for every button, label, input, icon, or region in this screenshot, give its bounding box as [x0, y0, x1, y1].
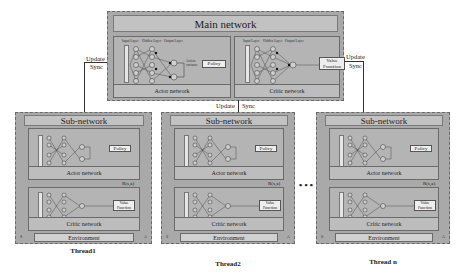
value-function-box: ValueFunction [113, 200, 135, 211]
subnetwork-title: Sub-network [170, 115, 288, 126]
main-value-function-box: ValueFunction [319, 57, 345, 70]
state-input-bar [339, 192, 344, 220]
actor-network: Policy Actor network [28, 128, 140, 180]
critic-network: ValueFunction Critic network [329, 187, 439, 231]
critic-network: ValueFunction Critic network [28, 187, 140, 231]
main-critic-network: Input Layer Hidden Layer Output Layer Va… [234, 36, 340, 98]
thread2-label: Thread2 [188, 260, 268, 268]
neural-net-icon [345, 133, 405, 169]
state-input-bar [245, 45, 250, 83]
main-policy-box: Policy [202, 60, 226, 68]
actor-network-label: Actor network [29, 166, 139, 179]
state-corner-label: S [321, 234, 323, 239]
subnetwork-title: Sub-network [24, 115, 144, 126]
critic-network: ValueFunction Critic network [174, 187, 284, 231]
state-input-bar [184, 192, 189, 220]
main-actor-network: Input Layer Hidden Layer Output Layer Ac… [113, 36, 231, 98]
actor-network-label: Actor network [330, 166, 438, 179]
neural-net-icon [44, 133, 104, 169]
critic-network-label: Critic network [29, 217, 139, 230]
right-connector-vertical [363, 61, 364, 112]
state-input-bar [38, 135, 43, 167]
reward-label: R(s,a) [268, 181, 280, 186]
state-input-bar [184, 135, 189, 167]
state-input-bar [339, 135, 344, 167]
state-input-bar [38, 192, 43, 220]
thread2-subnetwork-panel: Sub-network Policy Actor network R(s,a) … [161, 112, 295, 244]
action-corner-label: A [442, 234, 445, 239]
center-update-label: Update [216, 102, 235, 109]
environment-bar: Environment [34, 233, 134, 242]
environment-bar: Environment [180, 233, 278, 242]
main-actor-label: Actor network [114, 84, 230, 97]
state-corner-label: S [166, 234, 168, 239]
environment-bar: Environment [335, 233, 433, 242]
actor-network: Policy Actor network [329, 128, 439, 180]
thread1-label: Thread1 [43, 247, 123, 255]
value-function-box: ValueFunction [259, 200, 281, 211]
state-input-bar [124, 45, 129, 83]
main-critic-label: Critic network [235, 84, 339, 97]
neural-net-icon [130, 43, 190, 87]
subnetwork-title: Sub-network [325, 115, 443, 126]
left-sync-label: Sync [90, 63, 103, 70]
neural-net-icon [190, 133, 250, 169]
critic-network-label: Critic network [175, 217, 283, 230]
policy-box: Policy [255, 145, 277, 152]
policy-box: Policy [410, 145, 432, 152]
left-connector [84, 62, 107, 63]
threadn-label: Thread n [343, 258, 423, 266]
critic-network-label: Critic network [330, 217, 438, 230]
center-sync-label: Sync [242, 102, 255, 109]
policy-box: Policy [109, 145, 131, 152]
reward-label: R(s,a) [423, 181, 435, 186]
state-corner-label: S [20, 234, 22, 239]
right-update-label: Update [346, 53, 365, 60]
action-corner-label: A [144, 234, 147, 239]
right-connector [344, 61, 364, 62]
reward-label: R(s,a) [122, 181, 134, 186]
action-corner-label: A [287, 234, 290, 239]
value-function-box: ValueFunction [414, 200, 436, 211]
main-network-title: Main network [113, 15, 338, 32]
thread1-subnetwork-panel: Sub-network Policy Actor network R(s,a) … [15, 112, 152, 244]
ellipsis: • • • [299, 180, 313, 190]
left-connector-vertical [84, 62, 85, 112]
left-update-label: Update [86, 55, 105, 62]
actor-network-label: Actor network [175, 166, 283, 179]
center-connector [238, 100, 239, 112]
right-sync-label: Sync [349, 62, 362, 69]
actor-network: Policy Actor network [174, 128, 284, 180]
main-network-panel: Main network Input Layer Hidden Layer Ou… [107, 11, 344, 101]
threadn-subnetwork-panel: Sub-network Policy Actor network R(s,a) … [316, 112, 450, 244]
action-variance-label: Actionvariance [186, 59, 198, 67]
